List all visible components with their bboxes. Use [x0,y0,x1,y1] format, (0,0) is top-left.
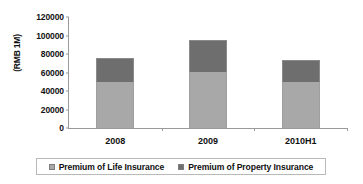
y-axis-tick-label: 0 [59,123,64,133]
legend-swatch-icon [49,164,55,170]
bar-segment [96,82,134,128]
bar-stack [96,58,134,128]
y-axis-tick-mark [66,54,69,55]
bar-segment [96,58,134,82]
y-axis-tick-mark [66,109,69,110]
legend-item[interactable]: Premium of Life Insurance [49,162,164,172]
bar-segment [189,40,227,72]
x-axis-tick-label: 2008 [105,136,125,146]
x-axis-tick-label: 2009 [198,136,218,146]
legend-swatch-icon [178,164,184,170]
y-axis-tick-mark [66,128,69,129]
chart-legend: Premium of Life InsurancePremium of Prop… [36,158,326,175]
y-axis-tick-label: 80000 [41,49,64,59]
y-axis-tick-label: 100000 [36,31,64,41]
y-axis-tick-mark [66,72,69,73]
x-axis-tick-mark [254,128,255,131]
y-axis-tick-label: 60000 [41,68,64,78]
bar-stack [282,60,320,128]
legend-item-label: Premium of Property Insurance [188,162,313,172]
legend-item-label: Premium of Life Insurance [59,162,164,172]
x-axis-tick-label: 2010H1 [285,136,317,146]
bar-stack [189,40,227,128]
bar-segment [282,82,320,128]
y-axis-tick-mark [66,17,69,18]
x-axis-tick-mark [162,128,163,131]
y-axis-tick-label: 40000 [41,86,64,96]
bar-segment [189,72,227,128]
y-axis-tick-mark [66,91,69,92]
y-axis-tick-label: 20000 [41,105,64,115]
y-axis-tick-mark [66,35,69,36]
y-axis-tick-label: 120000 [36,12,64,22]
legend-item[interactable]: Premium of Property Insurance [178,162,313,172]
y-axis-title: (RMB 1M) [12,17,22,89]
bar-segment [282,60,320,82]
x-axis-tick-mark [347,128,348,131]
plot-area: 0200004000060000800001000001200002008200… [68,17,347,129]
bars-container [69,17,347,128]
stacked-bar-chart: (RMB 1M) 0200004000060000800001000001200… [0,0,363,184]
